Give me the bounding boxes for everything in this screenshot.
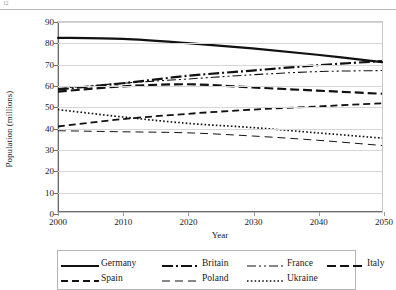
chart-legend: GermanyBritainFranceItaly SpainPolandUkr…: [57, 250, 356, 290]
gridline: [58, 171, 382, 172]
x-axis-tick-mark: [384, 212, 385, 216]
y-axis-tick-mark: [54, 150, 58, 151]
legend-label: Britain: [201, 258, 228, 268]
x-axis-title: Year: [57, 230, 383, 240]
x-axis-tick-mark: [254, 212, 255, 216]
series-lines: [58, 22, 382, 212]
legend-line-swatch-poland: [161, 272, 201, 283]
legend-label: Ukraine: [286, 273, 318, 283]
legend-label: Spain: [100, 273, 123, 283]
y-axis-tick-mark: [54, 193, 58, 194]
legend-line-swatch-spain: [60, 272, 100, 283]
page-corner-mark: 12: [3, 0, 8, 6]
legend-item-britain[interactable]: Britain: [161, 255, 246, 270]
legend-label: Italy: [366, 258, 384, 268]
x-axis-tick-mark: [319, 212, 320, 216]
population-line-chart: Population (millions) 010203040506070809…: [0, 12, 396, 288]
y-axis-tick-mark: [54, 171, 58, 172]
legend-line-swatch-ukraine: [246, 272, 286, 283]
y-axis-tick-label: 20: [45, 166, 54, 176]
legend-label: France: [286, 258, 313, 268]
legend-label: Germany: [100, 258, 136, 268]
y-axis-tick-mark: [54, 129, 58, 130]
legend-item-poland[interactable]: Poland: [161, 270, 246, 285]
y-axis-tick-label: 60: [45, 81, 54, 91]
y-axis-tick-mark: [54, 107, 58, 108]
gridline: [58, 193, 382, 194]
y-axis-title: Population (millions): [2, 64, 16, 194]
plot-area: 0102030405060708090200020102020203020402…: [57, 21, 383, 213]
y-axis-tick-mark: [54, 22, 58, 23]
y-axis-tick-label: 80: [45, 38, 54, 48]
legend-row: GermanyBritainFranceItaly: [60, 255, 353, 270]
legend-row: SpainPolandUkraine: [60, 270, 353, 285]
gridline: [58, 65, 382, 66]
y-axis-tick-mark: [54, 86, 58, 87]
x-axis-tick-mark: [123, 212, 124, 216]
gridline: [58, 86, 382, 87]
legend-item-ukraine[interactable]: Ukraine: [246, 270, 336, 285]
gridline: [58, 129, 382, 130]
legend-item-germany[interactable]: Germany: [60, 255, 161, 270]
x-axis-tick-mark: [58, 212, 59, 216]
gridline: [58, 107, 382, 108]
legend-line-swatch-germany: [60, 257, 100, 268]
y-axis-title-text: Population (millions): [4, 91, 14, 168]
y-axis-tick-mark: [54, 43, 58, 44]
y-axis-tick-label: 90: [45, 17, 54, 27]
legend-line-swatch-italy: [326, 257, 366, 268]
x-axis-tick-label: 2020: [179, 217, 197, 227]
y-axis-tick-label: 10: [45, 188, 54, 198]
y-axis-tick-label: 70: [45, 60, 54, 70]
series-line-germany: [58, 38, 382, 62]
gridline: [58, 150, 382, 151]
x-axis-tick-label: 2030: [245, 217, 263, 227]
legend-item-spain[interactable]: Spain: [60, 270, 161, 285]
x-axis-tick-label: 2010: [114, 217, 132, 227]
y-axis-tick-label: 40: [45, 124, 54, 134]
x-axis-tick-label: 2050: [375, 217, 393, 227]
gridline: [58, 22, 382, 23]
legend-line-swatch-britain: [161, 257, 201, 268]
x-axis-tick-label: 2040: [310, 217, 328, 227]
legend-label: Poland: [201, 273, 228, 283]
x-axis-tick-label: 2000: [49, 217, 67, 227]
gridline: [58, 43, 382, 44]
y-axis-tick-label: 50: [45, 102, 54, 112]
y-axis-tick-label: 30: [45, 145, 54, 155]
x-axis-tick-mark: [188, 212, 189, 216]
series-line-poland: [58, 131, 382, 146]
legend-line-swatch-france: [246, 257, 286, 268]
page-header-rule: [0, 9, 396, 10]
y-axis-tick-mark: [54, 65, 58, 66]
legend-item-france[interactable]: France: [246, 255, 326, 270]
legend-item-italy[interactable]: Italy: [326, 255, 386, 270]
